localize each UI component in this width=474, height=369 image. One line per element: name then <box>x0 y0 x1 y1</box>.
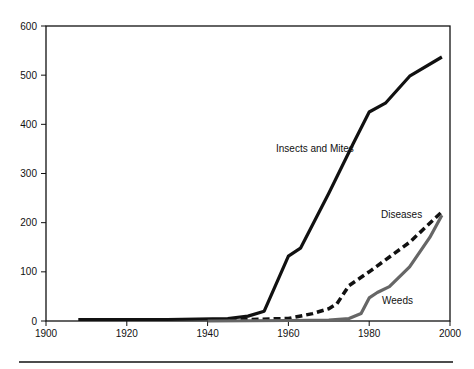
y-tick-label: 0 <box>31 316 37 327</box>
y-tick-label: 100 <box>20 266 37 277</box>
series-label-insects-and-mites: Insects and Mites <box>276 143 354 154</box>
plot-frame <box>46 26 450 321</box>
series-line-insects-and-mites <box>78 57 442 320</box>
y-tick-label: 500 <box>20 70 37 81</box>
y-tick-label: 600 <box>20 21 37 32</box>
x-tick-label: 2000 <box>439 328 462 339</box>
series-label-weeds: Weeds <box>382 295 413 306</box>
y-tick-label: 300 <box>20 168 37 179</box>
x-tick-label: 1900 <box>35 328 58 339</box>
chart: 0100200300400500600190019201940196019802… <box>0 0 474 369</box>
x-tick-label: 1960 <box>277 328 300 339</box>
y-tick-label: 200 <box>20 217 37 228</box>
series-label-diseases: Diseases <box>381 209 422 220</box>
x-tick-label: 1980 <box>358 328 381 339</box>
x-tick-label: 1920 <box>116 328 139 339</box>
x-tick-label: 1940 <box>196 328 219 339</box>
y-tick-label: 400 <box>20 119 37 130</box>
